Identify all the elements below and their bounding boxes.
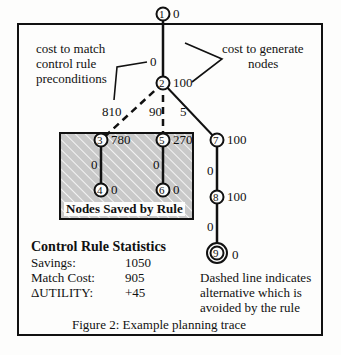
saved-nodes-label: Nodes Saved by Rule	[64, 202, 185, 216]
stats-utility-value: +45	[125, 286, 145, 300]
dashed-note-line-2: alternative which is	[200, 286, 302, 300]
stats-match-cost-label: Match Cost:	[31, 271, 95, 285]
figure-caption: Figure 2: Example planning trace	[72, 318, 246, 332]
stats-title: Control Rule Statistics	[31, 240, 166, 254]
node-7-cost: 100	[227, 133, 247, 147]
edge-3-4-match-cost: 0	[91, 158, 98, 172]
match-cost-annotation-line-2: control rule	[36, 57, 96, 71]
node-9-cost: 0	[232, 248, 239, 262]
edge-2-5-match-cost: 90	[149, 105, 162, 119]
node-4-id: 4	[97, 183, 103, 197]
stats-utility-label: ΔUTILITY:	[31, 286, 93, 300]
node-6-cost: 0	[173, 183, 180, 197]
match-cost-leader	[114, 62, 147, 100]
edge-8-9-match-cost: 0	[207, 220, 214, 234]
node-5-cost: 270	[173, 133, 193, 147]
node-4-cost: 0	[111, 183, 118, 197]
node-8-cost: 100	[227, 190, 247, 204]
match-cost-annotation-line-3: preconditions	[36, 72, 107, 86]
generate-cost-annotation-line-1: cost to generate	[222, 42, 304, 56]
node-7-id: 7	[213, 133, 219, 147]
node-9-id: 9	[213, 246, 219, 260]
node-2-id: 2	[159, 76, 165, 90]
stats-savings-label: Savings:	[31, 256, 76, 270]
node-3-id: 3	[97, 133, 103, 147]
edge-1-2-match-cost: 0	[150, 55, 157, 69]
edge-7-8-match-cost: 0	[207, 164, 214, 178]
generate-cost-annotation-line-2: nodes	[248, 57, 278, 71]
node-1-id: 1	[159, 7, 165, 21]
node-3-cost: 780	[111, 133, 131, 147]
edge-2-3-match-cost: 810	[102, 105, 122, 119]
stats-savings-value: 1050	[125, 256, 151, 270]
node-6-id: 6	[159, 183, 165, 197]
dashed-note-line-3: avoided by the rule	[200, 301, 300, 315]
dashed-note-line-1: Dashed line indicates	[200, 271, 311, 285]
stats-match-cost-value: 905	[125, 271, 145, 285]
node-5-id: 5	[159, 133, 165, 147]
match-cost-annotation-line-1: cost to match	[36, 42, 105, 56]
node-1-cost: 0	[173, 7, 180, 21]
node-2-cost: 100	[173, 76, 193, 90]
node-8-id: 8	[213, 190, 219, 204]
edge-2-7-match-cost: 5	[180, 105, 187, 119]
edge-5-6-match-cost: 0	[153, 158, 160, 172]
